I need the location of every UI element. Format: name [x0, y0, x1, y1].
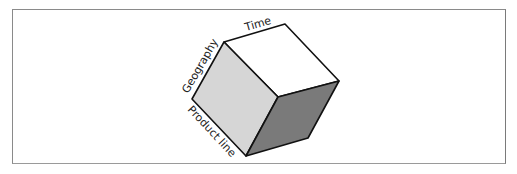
data-cube-diagram: Time Geography Product line	[0, 0, 517, 174]
